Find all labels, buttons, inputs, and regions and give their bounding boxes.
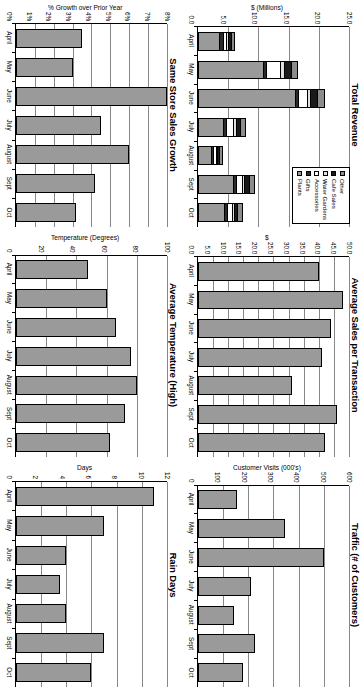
bar-august: [198, 606, 234, 625]
y-tick-label: 400: [293, 472, 299, 483]
y-tick-label: 0: [188, 479, 194, 483]
bar-july: [16, 116, 101, 135]
bar-segment-water-gardens: [217, 146, 218, 165]
bar-oct: [198, 433, 325, 452]
bar-slot: [16, 511, 167, 540]
plot-area-same-store-sales-growth: % Growth over Prior Year8%7%6%5%4%3%2%1%…: [3, 3, 167, 227]
bar-segment-other: [238, 203, 243, 222]
bar-slot: [16, 570, 167, 599]
y-tick-label: 2: [32, 476, 38, 480]
chart-row-top: Total Revenue$ (Millions)25.020.015.010.…: [182, 0, 364, 690]
bar-slot: [16, 371, 167, 400]
y-tick-label: 12: [164, 472, 170, 479]
bar-sept: [16, 633, 104, 652]
y-tick-label: 25.0: [267, 242, 273, 254]
legend-swatch-icon: [340, 171, 345, 176]
bar-august: [198, 376, 292, 395]
bar-segment-water-gardens: [243, 175, 245, 194]
plot-canvas-rain-days: [15, 481, 167, 687]
x-tick-label: Oct: [3, 428, 15, 457]
x-tick-label: August: [185, 371, 197, 400]
bar-april: [16, 29, 82, 48]
legend-label: Gifts: [305, 179, 313, 192]
plot-column-rain-days: AprilMayJuneJulyAugustSeptOct: [3, 481, 167, 687]
plot-column-traffic: AprilMayJuneJulyAugustSeptOct: [185, 485, 349, 687]
bar-may: [16, 289, 107, 308]
bar-april: [16, 260, 88, 279]
x-axis-ticks-average-temperature: AprilMayJuneJulyAugustSeptOct: [3, 255, 15, 457]
x-tick-label: August: [185, 141, 197, 170]
x-tick-label: July: [185, 342, 197, 371]
x-tick-label: Sept: [3, 399, 15, 428]
x-tick-label: May: [185, 55, 197, 84]
x-axis-ticks-traffic: AprilMayJuneJulyAugustSeptOct: [185, 485, 197, 687]
x-tick-label: Sept: [185, 629, 197, 658]
y-tick-label: 500: [320, 472, 326, 483]
y-tick-label: 5%: [105, 12, 111, 21]
bar-june: [16, 87, 167, 106]
chart-average-temperature: Average Temperature (High)Temperature (D…: [0, 230, 182, 460]
bar-slot: [198, 113, 349, 142]
y-tick-label: 40.0: [314, 242, 320, 254]
y-axis-ticks-same-store-sales-growth: 8%7%6%5%4%3%2%1%0%: [3, 12, 167, 23]
bar-oct: [16, 203, 76, 222]
legend-label: Cafe Sales: [330, 179, 338, 209]
x-tick-label: April: [185, 26, 197, 55]
bar-segment-other: [232, 32, 235, 51]
x-tick-label: Oct: [185, 428, 197, 457]
x-tick-label: August: [3, 599, 15, 628]
x-axis-ticks-avg-sales-per-transaction: AprilMayJuneJulyAugustSeptOct: [185, 256, 197, 457]
bar-slot: [198, 56, 349, 85]
bar-segment-accessories: [299, 89, 308, 108]
y-axis-label-average-temperature: Temperature (Degrees): [3, 233, 167, 242]
plot-column-same-store-sales-growth: AprilMayJuneJulyAugustSeptOct: [3, 23, 167, 227]
bar-april: [198, 262, 319, 281]
bar-segment-plants: [198, 61, 264, 80]
bar-slot: [198, 400, 349, 429]
bar-segment-other: [318, 89, 325, 108]
bar-may: [198, 519, 285, 538]
bar-slot: [16, 24, 167, 53]
y-tick-label: 100: [164, 242, 170, 253]
bar-segment-gifts: [212, 146, 214, 165]
x-tick-label: Oct: [3, 198, 15, 227]
x-tick-label: August: [3, 370, 15, 399]
y-tick-label: 45.0: [330, 242, 336, 254]
bar-slot: [198, 141, 349, 170]
y-axis-label-same-store-sales-growth: % Growth over Prior Year: [3, 3, 167, 12]
bar-slot: [198, 27, 349, 56]
bar-segment-other: [220, 146, 222, 165]
bar-segment-water-gardens: [234, 118, 237, 137]
bar-slot: [198, 428, 349, 457]
x-tick-label: August: [185, 600, 197, 629]
y-tick-label: 15.0: [283, 12, 289, 24]
x-tick-label: April: [3, 481, 15, 510]
y-tick-label: 200: [241, 472, 247, 483]
bar-segment-water-gardens: [308, 89, 311, 108]
legend-swatch-icon: [315, 171, 320, 176]
x-tick-label: Oct: [185, 198, 197, 227]
bar-segment-accessories: [228, 203, 233, 222]
y-tick-label: 5.0: [220, 16, 226, 25]
y-axis-label-traffic: Customer Visits (000's): [185, 463, 349, 472]
bar-slot: [16, 541, 167, 570]
y-tick-label: 25.0: [346, 12, 352, 24]
x-tick-label: April: [3, 23, 15, 52]
bar-july: [198, 577, 251, 596]
x-tick-label: June: [3, 540, 15, 569]
x-tick-label: July: [185, 571, 197, 600]
bar-segment-gifts: [234, 175, 237, 194]
x-tick-label: June: [185, 542, 197, 571]
bar-segment-plants: [198, 118, 224, 137]
x-tick-label: May: [3, 52, 15, 81]
chart-title-average-temperature: Average Temperature (High): [168, 233, 179, 457]
y-tick-label: 80: [132, 246, 138, 253]
bar-slot: [198, 286, 349, 315]
chart-row-bottom: Same Store Sales Growth% Growth over Pri…: [0, 0, 182, 690]
bar-slot: [198, 486, 349, 515]
bar-segment-plants: [198, 32, 220, 51]
bar-segment-cafe-sales: [285, 61, 292, 80]
bar-slot: [16, 256, 167, 285]
bar-oct: [198, 663, 243, 682]
y-axis-label-avg-sales-per-transaction: $: [185, 233, 349, 242]
